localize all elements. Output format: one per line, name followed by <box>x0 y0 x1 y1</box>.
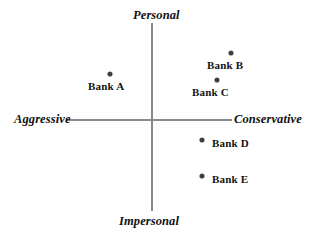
data-point-dot <box>108 72 112 76</box>
data-point-dot <box>200 138 204 142</box>
data-point-dot <box>200 174 204 178</box>
data-point-label: Bank B <box>207 59 243 71</box>
horizontal-axis-line <box>67 119 232 121</box>
data-point-dot <box>229 51 233 55</box>
perceptual-map-chart: Personal Impersonal Aggressive Conservat… <box>0 0 320 238</box>
axis-pole-label-top: Personal <box>133 8 180 23</box>
vertical-axis-line <box>151 23 153 211</box>
data-point-label: Bank A <box>88 80 124 92</box>
axis-pole-label-bottom: Impersonal <box>119 214 179 229</box>
axis-pole-label-right: Conservative <box>234 112 302 127</box>
axis-pole-label-left: Aggressive <box>14 112 71 127</box>
data-point-label: Bank D <box>212 137 249 149</box>
data-point-dot <box>215 78 219 82</box>
data-point-label: Bank C <box>192 86 229 98</box>
data-point-label: Bank E <box>212 173 248 185</box>
